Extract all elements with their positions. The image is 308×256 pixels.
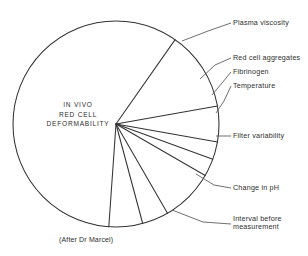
callout-label-temperature: Temperature — [233, 82, 275, 91]
pie-chart-figure: IN VIVO RED CELL DEFORMABILITY Plasma vi… — [0, 0, 308, 256]
slice-divider-interval-before-measurement-end — [109, 124, 116, 227]
callout-label-filter-variability: Filter variability — [233, 132, 284, 141]
leader-line-red-cell-aggregates — [200, 58, 231, 79]
slice-divider-plasma-viscosity-start — [116, 40, 175, 124]
pie-center-label-line-in-vivo: IN VIVO — [36, 100, 120, 110]
callout-label-interval-before-measurement-line2: measurement — [233, 223, 279, 232]
leader-line-plasma-viscosity — [182, 23, 231, 41]
callout-label-plasma-viscosity: Plasma viscosity — [233, 19, 289, 28]
slice-divider-fibrinogen-end — [116, 124, 213, 159]
callout-label-change-in-ph: Change in pH — [233, 184, 279, 193]
pie-center-label-line-deformability: DEFORMABILITY — [36, 119, 120, 129]
slice-divider-filter-variability-end — [116, 124, 168, 213]
slice-divider-plasma-viscosity-end — [116, 106, 217, 124]
pie-center-label-block: IN VIVO RED CELL DEFORMABILITY — [36, 100, 120, 129]
leader-line-interval-before-measurement — [172, 210, 231, 224]
callout-label-fibrinogen: Fibrinogen — [233, 68, 269, 77]
leader-line-temperature — [216, 86, 231, 113]
callout-label-red-cell-aggregates: Red cell aggregates — [233, 54, 300, 63]
pie-center-label-line-red-cell: RED CELL — [36, 110, 120, 120]
figure-caption: (After Dr Marcel) — [59, 236, 113, 243]
slice-divider-change-in-ph-end — [116, 124, 143, 224]
